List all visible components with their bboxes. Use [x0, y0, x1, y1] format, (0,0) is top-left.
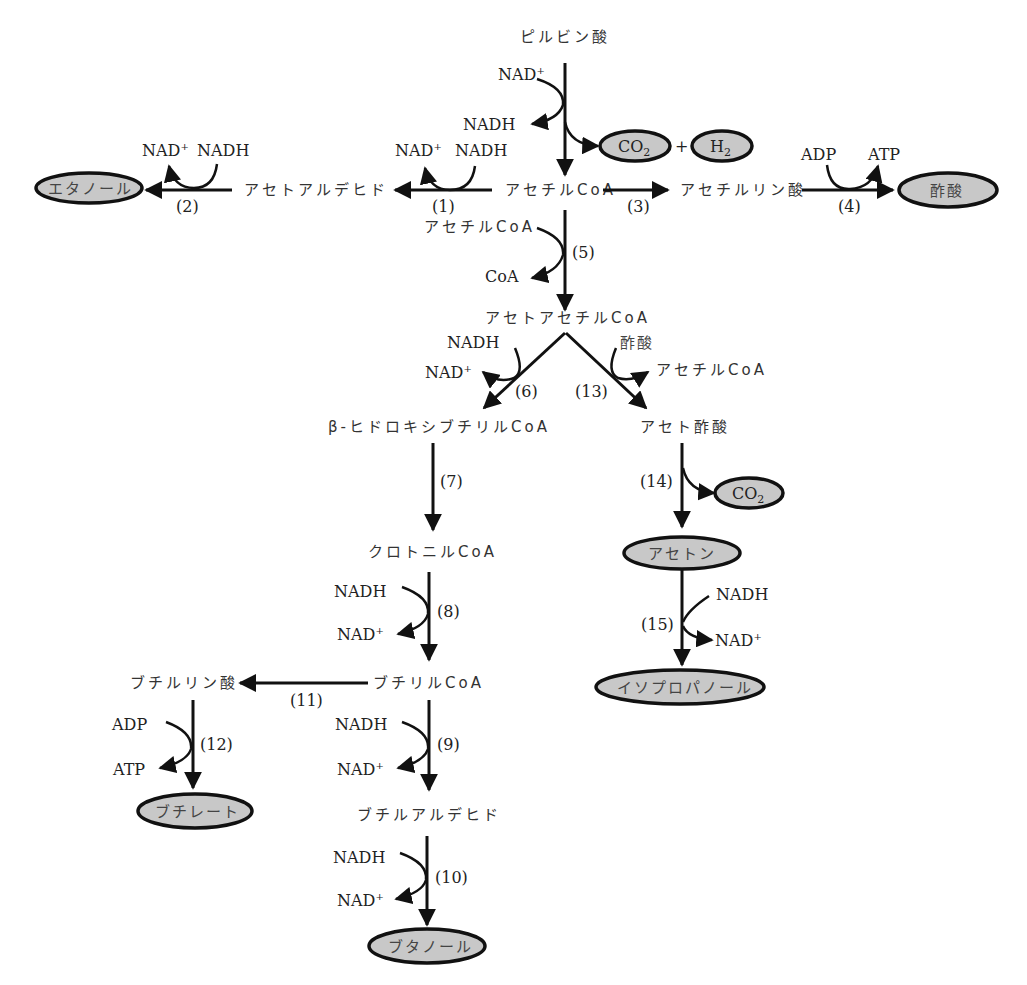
cofactor-curve-step-1	[425, 166, 475, 190]
cofactor-nad-plus: NAD+	[337, 625, 384, 644]
node-pyruvate: ピルビン酸	[520, 28, 610, 46]
step-label-6: (6)	[515, 382, 538, 401]
cofactor-acetate: 酢酸	[620, 334, 654, 352]
cofactor-coa: CoA	[485, 267, 519, 286]
plus-sign: +	[675, 137, 688, 156]
cofactor-nadh: NADH	[197, 141, 249, 160]
step-label-14: (14)	[640, 472, 673, 491]
curve-to-co2-h2	[565, 122, 598, 146]
node-hydroxybutyryl-coa: β-ヒドロキシブチリルCoA	[328, 418, 550, 436]
node-acetaldehyde: アセトアルデヒド	[244, 181, 388, 199]
step-label-4: (4)	[838, 197, 861, 216]
node-acetoacetate: アセト酢酸	[640, 418, 730, 436]
cofactor-adp: ADP	[800, 145, 836, 164]
cofactor-curve-pyruvate-nad	[532, 79, 563, 124]
cofactor-atp: ATP	[867, 145, 900, 164]
cofactor-atp: ATP	[112, 760, 145, 779]
step-label-2: (2)	[176, 197, 199, 216]
step-label-15: (15)	[641, 615, 674, 634]
cofactor-nad-plus: NAD+	[337, 891, 384, 910]
cofactor-curve-step-13	[611, 348, 648, 379]
cofactor-nad-plus: NAD+	[715, 631, 762, 650]
cofactor-curve-step-15-in	[683, 596, 709, 622]
node-butyryl-phosphate: ブチルリン酸	[130, 674, 238, 692]
step-label-8: (8)	[437, 602, 460, 621]
cofactor-nadh: NADH	[455, 141, 507, 160]
node-crotonyl-coa: クロトニルCoA	[368, 543, 497, 561]
step-label-13: (13)	[575, 382, 608, 401]
step-label-7: (7)	[440, 472, 463, 491]
fermentation-pathway-diagram: ピルビン酸 NAD+ NADH CO2 + H2 アセチルCoA NAD+ NA…	[0, 0, 1027, 985]
step-label-1: (1)	[432, 197, 455, 216]
node-acetyl-phosphate: アセチルリン酸	[680, 181, 806, 199]
cofactor-curve-step-4	[827, 165, 878, 189]
product-butanol-label: ブタノール	[388, 938, 473, 956]
cofactor-curve-step-8	[398, 587, 428, 634]
cofactor-curve-step-15-out	[683, 626, 712, 640]
cofactor-nad-plus: NAD+	[425, 363, 472, 382]
cofactor-acetyl-coa: アセチルCoA	[656, 361, 767, 379]
product-acetone-label: アセトン	[648, 545, 716, 563]
cofactor-curve-step-6	[483, 348, 520, 380]
product-ethanol-label: エタノール	[48, 180, 133, 198]
cofactor-adp: ADP	[111, 715, 147, 734]
product-butyrate-label: ブチレート	[155, 803, 240, 821]
cofactor-curve-step-10	[396, 853, 426, 899]
step-label-3: (3)	[627, 197, 650, 216]
step-label-5: (5)	[572, 243, 595, 262]
cofactor-curve-step-12	[160, 722, 191, 768]
step-label-9: (9)	[437, 735, 460, 754]
cofactor-nadh: NADH	[335, 715, 387, 734]
curve-to-co2-mid	[683, 468, 714, 493]
cofactor-nad-plus: NAD+	[337, 760, 384, 779]
cofactor-curve-step-9	[398, 722, 428, 768]
step-label-10: (10)	[435, 868, 468, 887]
node-butyryl-coa: ブチリルCoA	[373, 674, 484, 692]
cofactor-nadh: NADH	[716, 585, 768, 604]
cofactor-nadh: NADH	[334, 582, 386, 601]
product-isopropanol-label: イソプロパノール	[617, 679, 753, 697]
node-acetoacetyl-coa: アセトアセチルCoA	[485, 309, 650, 327]
cofactor-nad-plus: NAD+	[395, 141, 442, 160]
cofactor-nadh: NADH	[447, 333, 499, 352]
product-acetate-label: 酢酸	[930, 182, 964, 200]
cofactor-nadh: NADH	[463, 115, 515, 134]
cofactor-nadh: NADH	[333, 848, 385, 867]
node-acetyl-coa: アセチルCoA	[505, 181, 616, 199]
node-butyraldehyde: ブチルアルデヒド	[357, 806, 501, 824]
cofactor-nad-plus: NAD+	[498, 65, 545, 84]
step-label-11: (11)	[290, 691, 323, 710]
cofactor-curve-step-2	[169, 164, 217, 188]
step-label-12: (12)	[200, 735, 233, 754]
cofactor-curve-step-5	[532, 228, 563, 278]
cofactor-acetyl-coa: アセチルCoA	[424, 218, 535, 236]
cofactor-nad-plus: NAD+	[142, 141, 189, 160]
